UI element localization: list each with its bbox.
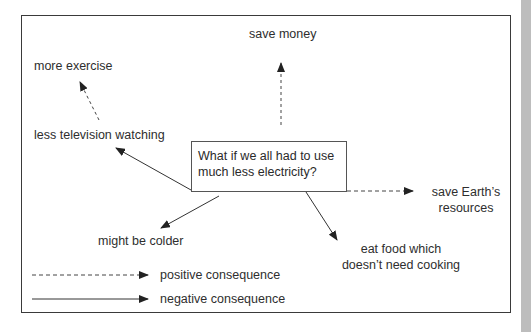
node-eat-food-line-1: eat food which	[334, 241, 468, 257]
node-less-television-watching: less television watching	[34, 127, 165, 143]
node-more-exercise: more exercise	[34, 58, 113, 74]
node-save-earths-resources-line-1: save Earth’s	[424, 184, 508, 200]
question-line-1: What if we all had to use	[198, 148, 340, 164]
node-eat-food-line-2: doesn’t need cooking	[334, 257, 468, 273]
arrow-might-be-colder	[161, 196, 219, 228]
central-question-box: What if we all had to use much less elec…	[191, 141, 347, 192]
question-line-2: much less electricity?	[198, 164, 340, 180]
node-eat-food-no-cooking: eat food which doesn’t need cooking	[334, 241, 468, 273]
node-save-money: save money	[249, 26, 316, 42]
legend-negative-label: negative consequence	[160, 291, 285, 307]
node-save-earths-resources: save Earth’s resources	[424, 184, 508, 216]
arrow-eat-food	[306, 192, 337, 240]
node-might-be-colder: might be colder	[98, 233, 183, 249]
legend-positive-label: positive consequence	[160, 267, 280, 283]
arrow-less-tv	[116, 148, 191, 190]
arrow-more-exercise	[80, 82, 99, 120]
node-save-earths-resources-line-2: resources	[424, 200, 508, 216]
